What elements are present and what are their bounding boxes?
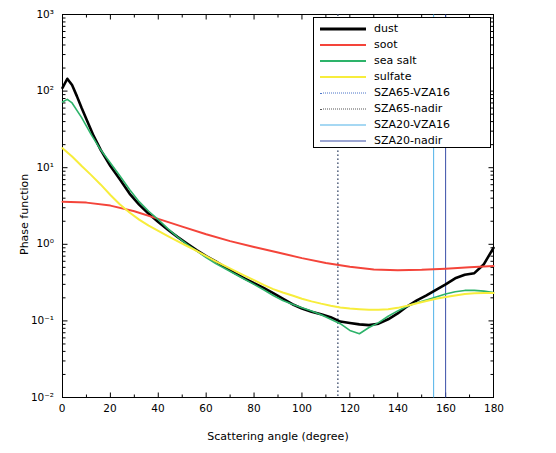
legend-label-sza20-vza16: SZA20-VZA16: [374, 119, 450, 131]
legend-item-soot: soot: [314, 37, 490, 53]
legend-label-sulfate: sulfate: [374, 71, 411, 83]
legend-label-sza65-vza16: SZA65-VZA16: [374, 87, 450, 99]
legend-item-sza65-vza16: SZA65-VZA16: [314, 85, 490, 101]
legend-item-sza65-nadir: SZA65-nadir: [314, 101, 490, 117]
legend-item-sza20-nadir: SZA20-nadir: [314, 133, 490, 149]
legend-item-dust: dust: [314, 21, 490, 37]
legend-item-sulfate: sulfate: [314, 69, 490, 85]
legend-label-sza20-nadir: SZA20-nadir: [374, 135, 442, 147]
legend: dust soot sea salt sulfate SZA65-VZA16 S…: [313, 17, 491, 148]
legend-label-soot: soot: [374, 39, 398, 51]
legend-label-sza65-nadir: SZA65-nadir: [374, 103, 442, 115]
legend-item-sea-salt: sea salt: [314, 53, 490, 69]
legend-item-sza20-vza16: SZA20-VZA16: [314, 117, 490, 133]
legend-label-dust: dust: [374, 23, 398, 35]
legend-label-sea-salt: sea salt: [374, 55, 417, 67]
phase-function-chart: 10³ 10² 10¹ 10⁰ 10⁻¹ 10⁻² 0 20 40 60 80 …: [0, 0, 556, 453]
